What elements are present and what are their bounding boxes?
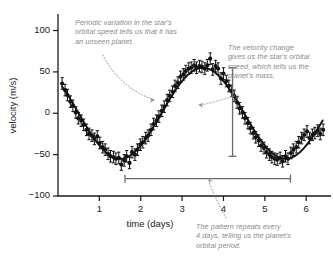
- y-tick-label: 100: [0, 24, 50, 35]
- x-tick-label: 1: [84, 203, 114, 214]
- y-tick-label: 50: [0, 65, 50, 76]
- arrowhead-periodic: [150, 98, 155, 103]
- x-tick-label: 2: [126, 203, 156, 214]
- annotation-leaders: [103, 55, 238, 218]
- orbital-period-marker: [125, 175, 290, 183]
- x-axis-ticks: [99, 196, 306, 201]
- fitted-sine-curve: [62, 68, 323, 159]
- annotation-velocity-change: The velocity change gives us the star's …: [228, 43, 332, 81]
- y-tick-label: 0: [0, 106, 50, 117]
- x-tick-label: 5: [250, 203, 280, 214]
- annotation-orbital-period: The pattern repeats every 4 days, tellin…: [196, 222, 320, 250]
- x-tick-label: 6: [291, 203, 321, 214]
- x-axis-label: time (days): [100, 218, 200, 229]
- annotation-periodic-variation: Periodic variation in the star's orbital…: [75, 18, 210, 46]
- leader-line-periodic: [103, 55, 155, 100]
- y-tick-label: −100: [0, 189, 50, 200]
- y-axis-ticks: [53, 31, 58, 196]
- x-tick-label: 3: [167, 203, 197, 214]
- velocity-amplitude-marker: [229, 68, 237, 157]
- y-tick-label: −50: [0, 148, 50, 159]
- radial-velocity-chart: Periodic variation in the star's orbital…: [0, 0, 333, 266]
- x-tick-label: 4: [208, 203, 238, 214]
